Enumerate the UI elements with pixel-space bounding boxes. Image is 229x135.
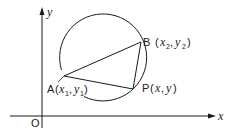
svg-text:x: x: [154, 81, 161, 95]
segment-AB: [64, 42, 141, 76]
svg-text:P: P: [142, 82, 149, 94]
svg-text:y: y: [174, 35, 181, 49]
label-point-B: B ( x 2 , y 2 ): [143, 35, 191, 50]
svg-text:): ): [173, 82, 177, 94]
origin-label: O: [31, 117, 40, 129]
svg-text:,: ,: [170, 36, 173, 48]
svg-text:,: ,: [161, 82, 164, 94]
svg-text:A: A: [47, 83, 55, 95]
svg-text:y: y: [73, 82, 80, 96]
svg-text:): ): [187, 36, 191, 48]
svg-text:): ): [84, 83, 88, 95]
y-axis-arrow-icon: [40, 7, 45, 15]
svg-text:,: ,: [69, 83, 72, 95]
x-axis-label: x: [217, 109, 224, 123]
svg-text:(: (: [155, 36, 159, 48]
label-point-P: P ( x , y ): [142, 81, 177, 95]
svg-text:x: x: [159, 35, 166, 49]
y-axis-label: y: [46, 5, 53, 19]
svg-text:2: 2: [182, 43, 186, 50]
segment-BP: [133, 42, 141, 89]
label-point-A: A ( x 1 , y 1 ): [47, 82, 88, 97]
svg-text:y: y: [165, 81, 172, 95]
x-axis-arrow-icon: [208, 114, 216, 119]
svg-text:x: x: [58, 82, 65, 96]
svg-text:B: B: [143, 36, 150, 48]
circle-diagram: y x O A ( x 1 , y 1 ) B ( x 2 , y 2 ) P …: [0, 0, 229, 135]
svg-text:(: (: [150, 82, 154, 94]
